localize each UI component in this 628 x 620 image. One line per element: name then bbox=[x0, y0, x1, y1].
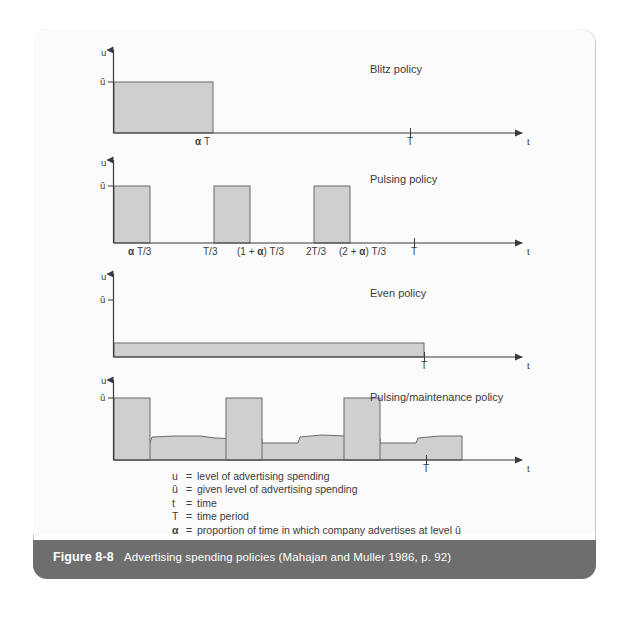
legend-definition-T-period: time period bbox=[197, 510, 502, 523]
chart-blitz-tick-label-T: T bbox=[407, 136, 413, 147]
chart-pulsing-tick-label-T3: T/3 bbox=[203, 246, 217, 257]
legend-symbol-ubar: û bbox=[172, 483, 186, 496]
legend-definition-t: time bbox=[197, 497, 502, 510]
legend-key: u = level of advertising spending û = gi… bbox=[172, 470, 502, 537]
legend-equals-u: = bbox=[186, 470, 197, 483]
chart-pulsing-tick-label-T: T bbox=[411, 246, 417, 257]
legend-equals-ubar: = bbox=[186, 483, 197, 496]
figure-caption-body: Advertising spending policies (Mahajan a… bbox=[124, 551, 451, 563]
legend-symbol-t: t bbox=[172, 497, 186, 510]
chart-title-pulsing-policy: Pulsing policy bbox=[370, 173, 437, 185]
legend-row-ubar: û = given level of advertising spending bbox=[172, 483, 502, 496]
chart-even-tick-label-T: T bbox=[421, 360, 427, 371]
chart-maintenance-ubar-label: û bbox=[100, 392, 105, 403]
legend-row-t: t = time bbox=[172, 497, 502, 510]
chart-pulsing-tick-label-2-alpha-T3: (2 + α) T/3 bbox=[339, 246, 386, 257]
figure-caption-label: Figure 8-8 bbox=[53, 550, 114, 564]
legend-row-alpha: α = proportion of time in which company … bbox=[172, 524, 502, 537]
legend-definition-u: level of advertising spending bbox=[197, 470, 502, 483]
chart-pulsing-tick-label-alphaT3: α T/3 bbox=[128, 246, 151, 257]
chart-blitz-x-axis-label: t bbox=[527, 136, 530, 147]
chart-title-blitz-policy: Blitz policy bbox=[370, 63, 422, 75]
chart-pulsing-ubar-label: û bbox=[100, 180, 105, 191]
legend-definition-alpha: proportion of time in which company adve… bbox=[197, 524, 502, 537]
legend-equals-T-period: = bbox=[186, 510, 197, 523]
chart-maintenance-y-axis-label: u bbox=[101, 375, 106, 386]
figure-root: Blitz policy u û t α T T Pulsing policy … bbox=[0, 0, 628, 620]
legend-equals-t: = bbox=[186, 497, 197, 510]
chart-even-y-axis-label: u bbox=[101, 271, 106, 282]
legend-symbol-T-period: T bbox=[172, 510, 186, 523]
chart-pulsing-tick-label-2T3: 2T/3 bbox=[306, 246, 326, 257]
legend-definition-ubar: given level of advertising spending bbox=[197, 483, 502, 496]
chart-pulsing-tick-label-1-alpha-T3: (1 + α) T/3 bbox=[237, 246, 284, 257]
chart-maintenance-x-axis-label: t bbox=[527, 463, 530, 474]
legend-symbol-u: u bbox=[172, 470, 186, 483]
chart-blitz-y-axis-label: u bbox=[101, 47, 106, 58]
legend-equals-alpha: = bbox=[186, 524, 197, 537]
chart-pulsing-y-axis-label: u bbox=[101, 157, 106, 168]
figure-caption-bar: Figure 8-8 Advertising spending policies… bbox=[33, 540, 596, 579]
legend-symbol-alpha: α bbox=[172, 524, 186, 537]
chart-blitz-ubar-label: û bbox=[100, 76, 105, 87]
chart-title-even-policy: Even policy bbox=[370, 287, 426, 299]
chart-even-x-axis-label: t bbox=[527, 360, 530, 371]
chart-even-ubar-label: û bbox=[100, 294, 105, 305]
legend-row-u: u = level of advertising spending bbox=[172, 470, 502, 483]
chart-pulsing-x-axis-label: t bbox=[527, 246, 530, 257]
chart-title-pulsing-maintenance-policy: Pulsing/maintenance policy bbox=[370, 391, 503, 403]
chart-blitz-tick-label-alphaT: α T bbox=[195, 136, 210, 147]
plot-plate bbox=[33, 29, 595, 534]
figure-caption: Figure 8-8 Advertising spending policies… bbox=[53, 550, 451, 564]
legend-row-T-period: T = time period bbox=[172, 510, 502, 523]
